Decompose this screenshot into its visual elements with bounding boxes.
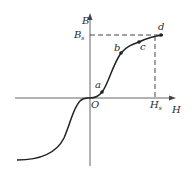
hs-label: Hs: [149, 99, 162, 111]
h-axis-label: H: [171, 104, 181, 115]
bs-label: Bs: [73, 29, 84, 41]
bs-label-main: B: [73, 29, 81, 40]
point-a-marker: [100, 90, 104, 94]
bs-label-sub: s: [81, 34, 84, 41]
hs-label-sub: s: [159, 104, 162, 111]
point-c-label: c: [140, 41, 146, 52]
point-b-label: b: [114, 42, 120, 53]
bh-curve-diagram: B H O Bs Hs a b c d: [0, 0, 193, 180]
point-d-label: d: [158, 21, 164, 32]
h-axis-arrow-icon: [169, 96, 176, 101]
origin-label: O: [91, 99, 99, 110]
point-a-label: a: [95, 79, 101, 90]
point-d-marker: [159, 33, 163, 37]
hs-label-main: H: [149, 99, 159, 110]
b-axis-label: B: [81, 15, 89, 26]
